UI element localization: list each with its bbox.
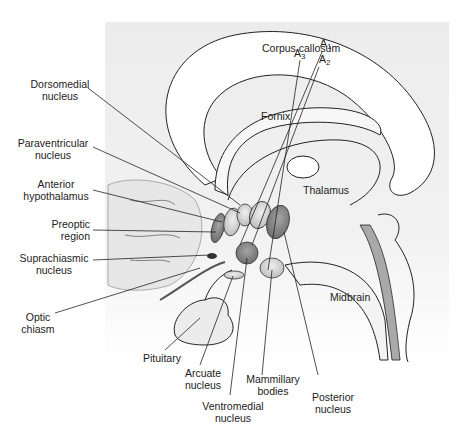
label-midbrain: Midbrain	[330, 291, 370, 303]
label-mammillary-bodies: Mammillarybodies	[238, 373, 308, 397]
fornix-shape	[215, 108, 381, 195]
label-a2: A2	[319, 53, 330, 69]
label-pituitary: Pituitary	[132, 352, 192, 364]
brain-sagittal-illustration	[0, 0, 463, 434]
label-optic-chiasm: Opticchiasm	[18, 311, 58, 335]
label-arcuate-nucleus: Arcuatenucleus	[178, 367, 228, 391]
label-dorsomedial-nucleus: Dorsomedialnucleus	[20, 78, 100, 102]
interthalamic-adhesion	[287, 156, 319, 178]
label-a1: A1	[320, 37, 331, 53]
label-preoptic-region: Preopticregion	[30, 218, 90, 242]
label-paraventricular-nucleus: Paraventricularnucleus	[8, 137, 98, 161]
suprachiasmatic-nucleus	[207, 253, 217, 259]
label-a3: A3	[294, 47, 305, 63]
label-thalamus: Thalamus	[303, 184, 349, 196]
label-suprachiasmic-nucleus: Suprachiasmicnucleus	[14, 252, 94, 276]
midbrain-shape	[285, 262, 388, 360]
pituitary-shape	[174, 298, 233, 345]
label-posterior-nucleus: Posteriornucleus	[303, 391, 363, 415]
label-ventromedial-nucleus: Ventromedialnucleus	[198, 400, 268, 424]
label-anterior-hypothalamus: Anteriorhypothalamus	[20, 178, 92, 202]
arcuate-nucleus	[224, 271, 244, 279]
mammillary-body	[260, 258, 284, 278]
label-fornix: Fornix	[261, 110, 290, 122]
hypothalamus-diagram: Corpus callosum Fornix Thalamus Midbrain…	[0, 0, 463, 434]
